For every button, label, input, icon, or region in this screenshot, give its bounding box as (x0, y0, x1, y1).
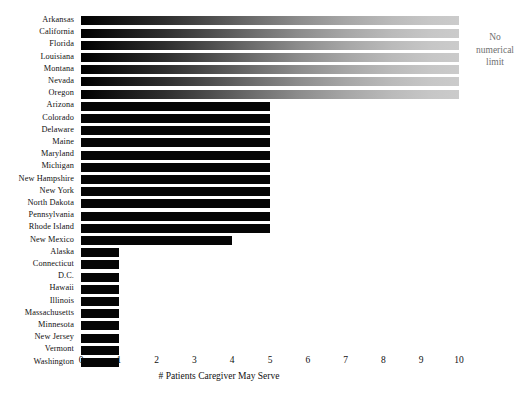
bar[interactable] (81, 334, 119, 343)
bar[interactable] (81, 102, 270, 111)
x-axis-title: # Patients Caregiver May Serve (0, 371, 526, 381)
bar-row: Florida (0, 39, 526, 51)
bar-category-label: Nevada (0, 76, 74, 86)
bar[interactable] (81, 297, 119, 306)
bar-category-label: Minnesota (0, 320, 74, 330)
bar[interactable] (81, 65, 459, 74)
x-axis-tick-label: 3 (179, 354, 209, 366)
bar-category-label: Colorado (0, 113, 74, 123)
bar-row: New York (0, 186, 526, 198)
bar-category-label: Illinois (0, 296, 74, 306)
bar-fill (81, 285, 119, 294)
bar-category-label: Montana (0, 64, 74, 74)
bar[interactable] (81, 236, 232, 245)
bar-category-label: Hawaii (0, 283, 74, 293)
bar-fill (81, 224, 270, 233)
bar[interactable] (81, 90, 459, 99)
bar[interactable] (81, 273, 119, 282)
bar-row: Hawaii (0, 283, 526, 295)
bar[interactable] (81, 163, 270, 172)
bar-category-label: North Dakota (0, 198, 74, 208)
bar[interactable] (81, 248, 119, 257)
bar-category-label: New Mexico (0, 235, 74, 245)
x-axis-tick-label: 8 (368, 354, 398, 366)
annotation-line-2: numerical (466, 44, 524, 57)
annotation-line-3: limit (466, 56, 524, 69)
bar-row: Maryland (0, 149, 526, 161)
bar[interactable] (81, 285, 119, 294)
x-axis-tick-label: 10 (444, 354, 474, 366)
bar[interactable] (81, 212, 270, 221)
bar-fill (81, 212, 270, 221)
bar[interactable] (81, 224, 270, 233)
bar-row: Louisiana (0, 52, 526, 64)
bar-fill (81, 236, 232, 245)
x-axis-tick-label: 2 (142, 354, 172, 366)
bar[interactable] (81, 187, 270, 196)
bar-fill (81, 273, 119, 282)
bar-category-label: Maine (0, 137, 74, 147)
bar-category-label: New Hampshire (0, 174, 74, 184)
bar-fill (81, 53, 459, 62)
bar-fill (81, 102, 270, 111)
plot-area: ArkansasCaliforniaFloridaLouisianaMontan… (0, 0, 526, 398)
bar-row: Arizona (0, 100, 526, 112)
bar-category-label: Pennsylvania (0, 210, 74, 220)
bar[interactable] (81, 138, 270, 147)
bar[interactable] (81, 29, 459, 38)
bar-row: North Dakota (0, 198, 526, 210)
bar-category-label: California (0, 27, 74, 37)
bar-category-label: Maryland (0, 149, 74, 159)
bar-fill (81, 175, 270, 184)
bar-fill (81, 151, 270, 160)
bar-fill (81, 309, 119, 318)
bar[interactable] (81, 126, 270, 135)
bar[interactable] (81, 199, 270, 208)
bar-fill (81, 321, 119, 330)
bar-category-label: Florida (0, 39, 74, 49)
bar-fill (81, 138, 270, 147)
bar-row: Alaska (0, 247, 526, 259)
bar-fill (81, 187, 270, 196)
x-axis-tick-label: 1 (104, 354, 134, 366)
bar-category-label: Washington (0, 357, 74, 367)
bar-fill (81, 334, 119, 343)
x-axis-tick-label: 7 (331, 354, 361, 366)
bar[interactable] (81, 321, 119, 330)
bar[interactable] (81, 309, 119, 318)
bar-fill (81, 163, 270, 172)
bar[interactable] (81, 77, 459, 86)
bar-category-label: Michigan (0, 161, 74, 171)
x-axis-tick-label: 0 (66, 354, 96, 366)
bar-category-label: Alaska (0, 247, 74, 257)
bar-row: Connecticut (0, 259, 526, 271)
bar-row: New Mexico (0, 235, 526, 247)
bar-fill (81, 248, 119, 257)
bar-row: Montana (0, 64, 526, 76)
bar-category-label: Louisiana (0, 52, 74, 62)
bar[interactable] (81, 151, 270, 160)
bar[interactable] (81, 114, 270, 123)
x-axis-tick-label: 5 (255, 354, 285, 366)
x-axis-tick-label: 6 (293, 354, 323, 366)
bar-category-label: New Jersey (0, 332, 74, 342)
bar[interactable] (81, 175, 270, 184)
bar-row: Michigan (0, 161, 526, 173)
bar-fill (81, 199, 270, 208)
bar-category-label: Oregon (0, 88, 74, 98)
bar-fill (81, 41, 459, 50)
bar-category-label: Delaware (0, 125, 74, 135)
bar-row: Oregon (0, 88, 526, 100)
bar-row: Pennsylvania (0, 210, 526, 222)
bar-category-label: Arizona (0, 100, 74, 110)
bar[interactable] (81, 260, 119, 269)
bar[interactable] (81, 53, 459, 62)
bar[interactable] (81, 41, 459, 50)
bar-category-label: Arkansas (0, 15, 74, 25)
bar-row: New Jersey (0, 332, 526, 344)
bar-category-label: Vermont (0, 344, 74, 354)
bar[interactable] (81, 16, 459, 25)
bar-category-label: D.C. (0, 271, 74, 281)
bar-row: Colorado (0, 113, 526, 125)
bar-row: Minnesota (0, 320, 526, 332)
